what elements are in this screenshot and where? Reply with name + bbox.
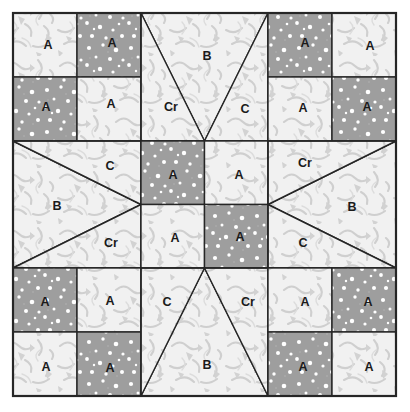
- label-a-tr-2: A: [365, 39, 374, 53]
- label-a-c-4: A: [235, 230, 244, 244]
- quilt-block-canvas: AAAABCrCAAAACBCrAAAACrBCAAAACCrBAAAA: [0, 0, 410, 412]
- quilt-block-diagram: AAAABCrCAAAACBCrAAAACrBCAAAACCrBAAAA: [0, 0, 410, 412]
- label-a-tr-1: A: [300, 36, 309, 50]
- label-a-bl-3: A: [41, 360, 50, 374]
- label-c-left: C: [105, 159, 114, 173]
- unit-bottom-left-four-patch[interactable]: [13, 268, 141, 396]
- label-cr-right: Cr: [298, 156, 312, 170]
- label-a-br-3: A: [298, 360, 307, 374]
- unit-middle-left-flying-geese[interactable]: [13, 141, 141, 268]
- unit-bottom-right-four-patch[interactable]: [268, 268, 396, 396]
- unit-bottom-center-flying-geese[interactable]: [141, 268, 268, 396]
- label-a-br-1: A: [300, 295, 309, 309]
- label-a-bl-4: A: [105, 361, 114, 375]
- unit-top-center-flying-geese[interactable]: [141, 13, 268, 141]
- label-b-top: B: [202, 49, 211, 63]
- label-cr-left: Cr: [104, 236, 118, 250]
- label-a-tl-3: A: [41, 100, 50, 114]
- unit-top-left-four-patch[interactable]: [13, 13, 141, 141]
- label-a-br-2: A: [363, 295, 372, 309]
- label-c-top: C: [240, 102, 249, 116]
- label-c-right: C: [298, 236, 307, 250]
- patch-a-light[interactable]: [332, 13, 396, 77]
- label-cr-top: Cr: [164, 100, 178, 114]
- label-a-tr-4: A: [362, 100, 371, 114]
- unit-center-four-patch[interactable]: [141, 141, 268, 268]
- label-a-bl-1: A: [40, 295, 49, 309]
- label-c-bot: C: [162, 295, 171, 309]
- label-cr-bot: Cr: [241, 295, 255, 309]
- label-a-bl-2: A: [105, 294, 114, 308]
- label-a-c-3: A: [170, 231, 179, 245]
- label-b-left: B: [52, 199, 61, 213]
- label-a-c-1: A: [168, 168, 177, 182]
- label-a-tl-2: A: [107, 36, 116, 50]
- label-a-tl-4: A: [106, 97, 115, 111]
- label-a-tl-1: A: [43, 38, 52, 52]
- unit-top-right-four-patch[interactable]: [268, 13, 396, 141]
- label-a-c-2: A: [234, 168, 243, 182]
- label-a-br-4: A: [364, 360, 373, 374]
- unit-middle-right-flying-geese[interactable]: [268, 141, 396, 268]
- label-a-tr-3: A: [298, 101, 307, 115]
- label-b-right: B: [347, 200, 356, 214]
- label-b-bot: B: [202, 358, 211, 372]
